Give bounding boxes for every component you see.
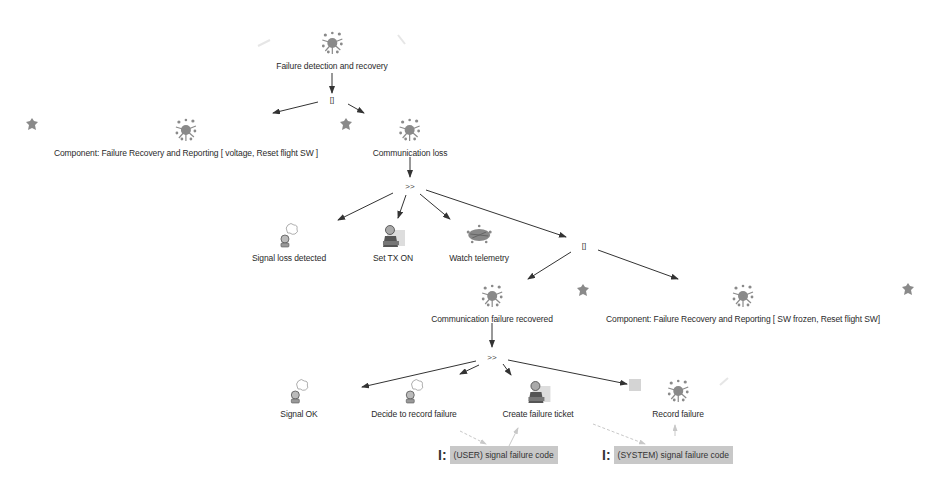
task-node-create-failure-ticket[interactable]: Create failure ticket <box>502 378 573 419</box>
thinking-user-icon <box>401 378 427 404</box>
enabling-operator-1[interactable]: >> <box>405 182 414 191</box>
task-label: Communication loss <box>373 148 448 158</box>
task-node-component-sw-frozen[interactable]: Component: Failure Recovery and Reportin… <box>606 283 880 324</box>
user-at-desk-icon <box>380 222 406 248</box>
task-label: Failure detection and recovery <box>276 61 387 71</box>
task-node-signal-loss-detected[interactable]: Signal loss detected <box>252 222 326 263</box>
task-label: Watch telemetry <box>449 253 509 263</box>
task-node-watch-telemetry[interactable]: Watch telemetry <box>449 222 509 263</box>
splat-icon <box>173 117 199 143</box>
scribble-icon <box>462 222 496 248</box>
choice-operator-1[interactable]: [] <box>330 95 334 104</box>
parameter-label: (SYSTEM) signal failure code <box>614 446 734 464</box>
task-label: Communication failure recovered <box>431 314 553 324</box>
task-node-root[interactable]: Failure detection and recovery <box>276 30 387 71</box>
task-node-set-tx-on[interactable]: Set TX ON <box>373 222 413 263</box>
task-node-decide-to-record-failure[interactable]: Decide to record failure <box>371 378 456 419</box>
component-marker-icon <box>26 118 38 130</box>
input-prefix: I: <box>602 447 611 463</box>
task-label: Signal loss detected <box>252 253 326 263</box>
splat-icon <box>730 283 756 309</box>
splat-icon <box>319 30 345 56</box>
enabling-operator-2[interactable]: >> <box>487 353 496 362</box>
thinking-user-icon <box>276 222 302 248</box>
splat-icon <box>665 378 691 404</box>
component-marker-icon <box>340 118 352 130</box>
splat-icon <box>397 117 423 143</box>
choice-operator-2[interactable]: [] <box>582 241 586 250</box>
task-label: Record failure <box>652 409 704 419</box>
task-node-signal-ok[interactable]: Signal OK <box>280 378 317 419</box>
component-marker-icon <box>577 284 589 296</box>
input-prefix: I: <box>438 447 447 463</box>
task-label: Component: Failure Recovery and Reportin… <box>606 314 880 324</box>
task-node-communication-failure-recovered[interactable]: Communication failure recovered <box>431 283 553 324</box>
connector-box-icon <box>629 379 641 391</box>
task-label: Set TX ON <box>373 253 413 263</box>
input-parameter-system[interactable]: I: (SYSTEM) signal failure code <box>602 446 733 464</box>
task-model-diagram: [] >> [] >> Failure detection and recove… <box>0 0 932 480</box>
thinking-user-icon <box>286 378 312 404</box>
splat-icon <box>479 283 505 309</box>
task-node-communication-loss[interactable]: Communication loss <box>373 117 448 158</box>
task-node-record-failure[interactable]: Record failure <box>652 378 704 419</box>
task-node-component-voltage[interactable]: Component: Failure Recovery and Reportin… <box>54 117 318 158</box>
component-marker-icon <box>902 283 914 295</box>
task-label: Component: Failure Recovery and Reportin… <box>54 148 318 158</box>
task-label: Create failure ticket <box>502 409 573 419</box>
task-label: Signal OK <box>280 409 317 419</box>
user-at-desk-icon <box>525 378 551 404</box>
task-label: Decide to record failure <box>371 409 456 419</box>
input-parameter-user[interactable]: I: (USER) signal failure code <box>438 446 558 464</box>
parameter-label: (USER) signal failure code <box>450 446 558 464</box>
